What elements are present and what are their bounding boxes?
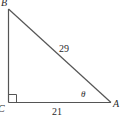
vertex-label-b: B bbox=[1, 0, 7, 8]
angle-theta-label: θ bbox=[81, 89, 86, 99]
vertex-label-a: A bbox=[112, 98, 120, 109]
right-angle-marker-icon bbox=[9, 95, 17, 103]
right-triangle-diagram: B C A 29 21 θ bbox=[0, 0, 129, 117]
leg-ca-length-label: 21 bbox=[52, 106, 62, 117]
side-ba-hypotenuse bbox=[9, 9, 112, 103]
hypotenuse-length-label: 29 bbox=[59, 43, 69, 54]
vertex-label-c: C bbox=[0, 103, 5, 114]
